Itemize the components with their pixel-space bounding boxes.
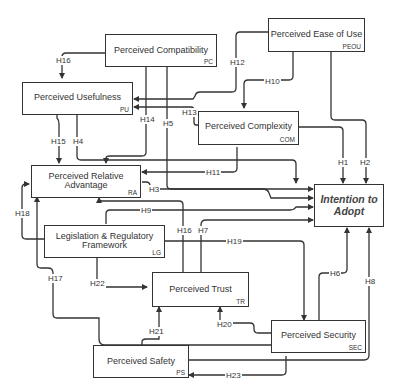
hypothesis-label-h23: H23 [225, 371, 242, 380]
hypothesis-label-h5: H5 [162, 119, 174, 128]
construct-abbr: PC [204, 58, 213, 65]
construct-label: Perceived Compatibility [106, 45, 216, 55]
hypothesis-label-h7: H7 [197, 226, 209, 235]
hypothesis-label-h15: H15 [50, 137, 67, 146]
hypothesis-label-h12: H12 [229, 58, 246, 67]
hypothesis-label-h6: H6 [329, 269, 341, 278]
construct-abbr: PU [120, 106, 129, 113]
construct-label: Perceived Ease of Use [269, 29, 364, 39]
construct-perceived-ease-of-use: Perceived Ease of Use PEOU [268, 18, 365, 52]
construct-perceived-relative-advantage: Perceived Relative Advantage RA [31, 165, 141, 198]
hypothesis-label-h9: H9 [140, 206, 152, 215]
hypothesis-label-h21: H21 [148, 327, 165, 336]
hypothesis-label-h11: H11 [205, 168, 221, 177]
hypothesis-label-h1: H1 [337, 158, 349, 167]
hypothesis-label-h10: H10 [264, 77, 281, 86]
construct-label: Perceived Safety [94, 356, 188, 366]
hypothesis-label-h16a: H16 [55, 56, 72, 65]
construct-perceived-usefulness: Perceived Usefulness PU [22, 82, 133, 115]
construct-label-line2: Framework [45, 240, 164, 250]
construct-abbr: PS [176, 369, 185, 376]
construct-label: Perceived Complexity [199, 121, 298, 131]
hypothesis-label-h19: H19 [226, 237, 243, 246]
hypothesis-label-h16b: H16 [176, 226, 193, 235]
construct-perceived-trust: Perceived Trust TR [152, 272, 249, 307]
construct-abbr: TR [236, 298, 245, 305]
construct-label-line1: Intention to [315, 193, 383, 205]
construct-label-line2: Advantage [32, 180, 140, 190]
construct-label: Perceived Usefulness [23, 92, 132, 102]
construct-perceived-complexity: Perceived Complexity COM [198, 111, 299, 145]
construct-perceived-safety: Perceived Safety PS [93, 345, 189, 378]
hypothesis-label-h20: H20 [216, 320, 233, 329]
construct-perceived-compatibility: Perceived Compatibility PC [105, 34, 217, 67]
hypothesis-label-h2: H2 [359, 158, 371, 167]
hypothesis-label-h8: H8 [364, 277, 376, 286]
construct-label: Perceived Trust [153, 284, 248, 294]
construct-intention-to-adopt: Intention to Adopt [314, 184, 384, 227]
hypothesis-label-h4: H4 [72, 137, 84, 146]
hypothesis-label-h3: H3 [148, 185, 160, 194]
hypothesis-label-h14: H14 [139, 115, 156, 124]
construct-abbr: COM [280, 136, 295, 143]
construct-abbr: RA [128, 189, 137, 196]
hypothesis-label-h13: H13 [181, 108, 198, 117]
construct-abbr: SEC [349, 344, 362, 351]
hypothesis-label-h17: H17 [47, 274, 64, 283]
construct-abbr: PEOU [343, 43, 361, 50]
construct-label-line2: Adopt [315, 205, 383, 217]
construct-perceived-security: Perceived Security SEC [271, 320, 366, 353]
hypothesis-label-h22: H22 [89, 279, 106, 288]
construct-legislation-regulatory-framework: Legislation & Regulatory Framework LG [44, 225, 165, 258]
construct-label: Perceived Security [272, 330, 365, 340]
hypothesis-label-h18: H18 [14, 209, 31, 218]
construct-abbr: LG [152, 249, 161, 256]
